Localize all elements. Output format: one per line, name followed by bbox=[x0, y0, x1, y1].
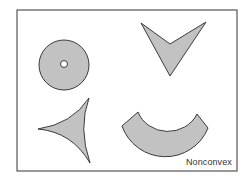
figure-caption: Nonconvex bbox=[186, 157, 232, 167]
annulus-shape bbox=[39, 40, 89, 90]
annulus-hole bbox=[61, 61, 68, 68]
nonconvex-figure bbox=[0, 0, 249, 181]
figure-frame bbox=[17, 10, 237, 171]
